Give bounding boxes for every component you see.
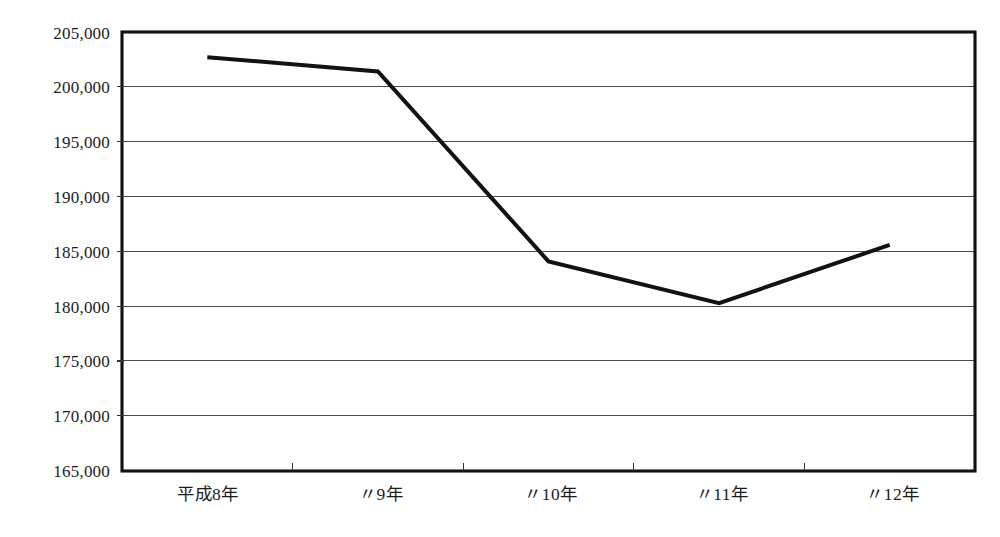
x-axis-label-heisei-8: 平成8年 <box>177 484 238 504</box>
chart-page: 205,000 200,000 195,000 190,000 185,000 … <box>0 0 1000 537</box>
y-axis-label-205000: 205,000 <box>53 24 110 43</box>
x-axis-label-heisei-9: 〃9年 <box>359 484 403 504</box>
x-axis-label-heisei-12: 〃12年 <box>866 484 919 504</box>
y-axis-label-170000: 170,000 <box>53 407 110 426</box>
y-axis-label-175000: 175,000 <box>53 352 110 371</box>
y-axis-labels-group: 205,000 200,000 195,000 190,000 185,000 … <box>53 24 110 482</box>
y-axis-label-195000: 195,000 <box>53 133 110 152</box>
chart-canvas: 205,000 200,000 195,000 190,000 185,000 … <box>0 0 1000 537</box>
gridlines-group <box>124 87 975 416</box>
x-axis-labels-group: 平成8年 〃9年 〃10年 〃11年 〃12年 <box>177 484 919 504</box>
data-series-line <box>207 57 889 303</box>
y-axis-label-200000: 200,000 <box>53 78 110 97</box>
x-axis-label-heisei-10: 〃10年 <box>524 484 577 504</box>
y-axis-label-180000: 180,000 <box>53 298 110 317</box>
y-axis-label-190000: 190,000 <box>53 188 110 207</box>
y-axis-label-165000: 165,000 <box>53 462 110 481</box>
x-axis-label-heisei-11: 〃11年 <box>696 484 748 504</box>
line-chart-figure: 205,000 200,000 195,000 190,000 185,000 … <box>0 0 1000 537</box>
y-axis-label-185000: 185,000 <box>53 243 110 262</box>
